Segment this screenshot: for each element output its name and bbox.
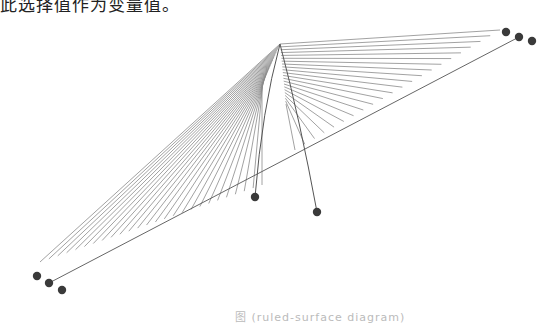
left-fan-line [102,55,275,240]
curve-to-mid2 [280,44,317,212]
right-fan-line [281,47,471,52]
node-mid2-icon [313,208,321,216]
line-fans [40,30,500,262]
node-tr2-icon [515,33,523,41]
right-fan-line [282,61,442,64]
left-fan-line [120,58,274,234]
left-fan-line [93,54,275,244]
left-fan-line [84,52,276,247]
node-tr1-icon [502,28,510,36]
long-diagonal-line [49,37,519,283]
node-tr3-icon [528,37,536,45]
left-fan-line [226,78,264,198]
right-fan-line [282,64,432,70]
right-fan-line [283,70,413,82]
node-mid1-icon [251,193,259,201]
right-fan-line [281,53,461,56]
figure-caption: 图 (ruled-surface diagram) [235,308,405,324]
left-fan-line [111,57,274,238]
left-fan-line [235,79,264,194]
left-fan-line [40,44,280,262]
node-bl2-icon [45,279,53,287]
left-fan-line [58,47,279,256]
node-bl1-icon [33,272,41,280]
long-line [49,37,519,283]
left-fan-line [49,46,279,259]
right-fan-line [286,104,295,150]
left-fan-line [76,50,278,249]
node-bl3-icon [58,286,66,294]
